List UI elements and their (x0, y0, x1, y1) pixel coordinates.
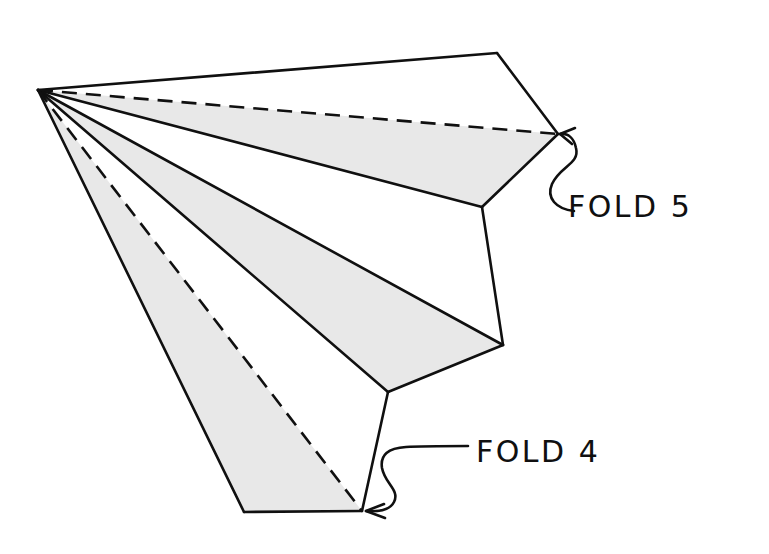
edge-bottom (244, 511, 362, 512)
fold-diagram-container: FOLD 5FOLD 4 (0, 0, 769, 554)
label-fold-4: FOLD 4 (476, 434, 600, 469)
fold-diagram: FOLD 5FOLD 4 (0, 0, 769, 554)
label-fold-5: FOLD 5 (568, 189, 692, 224)
